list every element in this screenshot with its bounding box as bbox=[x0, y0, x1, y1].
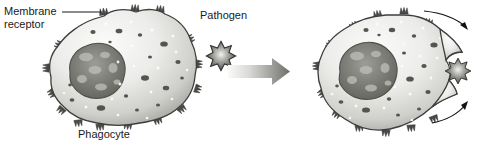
phagocyte-label: Phagocyte bbox=[78, 128, 130, 141]
pathogen-label: Pathogen bbox=[200, 9, 247, 22]
phagocyte-cell-after bbox=[312, 7, 470, 136]
membrane-receptor-label-line2: receptor bbox=[4, 18, 44, 30]
phagocytosis-figure: Membranereceptor Phagocyte Pathogen bbox=[0, 0, 482, 150]
membrane-receptor-label-line1: Membrane bbox=[4, 5, 57, 17]
motion-arrow-bottom bbox=[432, 104, 466, 123]
phagocyte-cell-before bbox=[42, 4, 202, 130]
membrane-receptor-label: Membranereceptor bbox=[4, 5, 57, 30]
diagram-canvas bbox=[0, 0, 482, 150]
transition-arrow bbox=[228, 58, 290, 85]
